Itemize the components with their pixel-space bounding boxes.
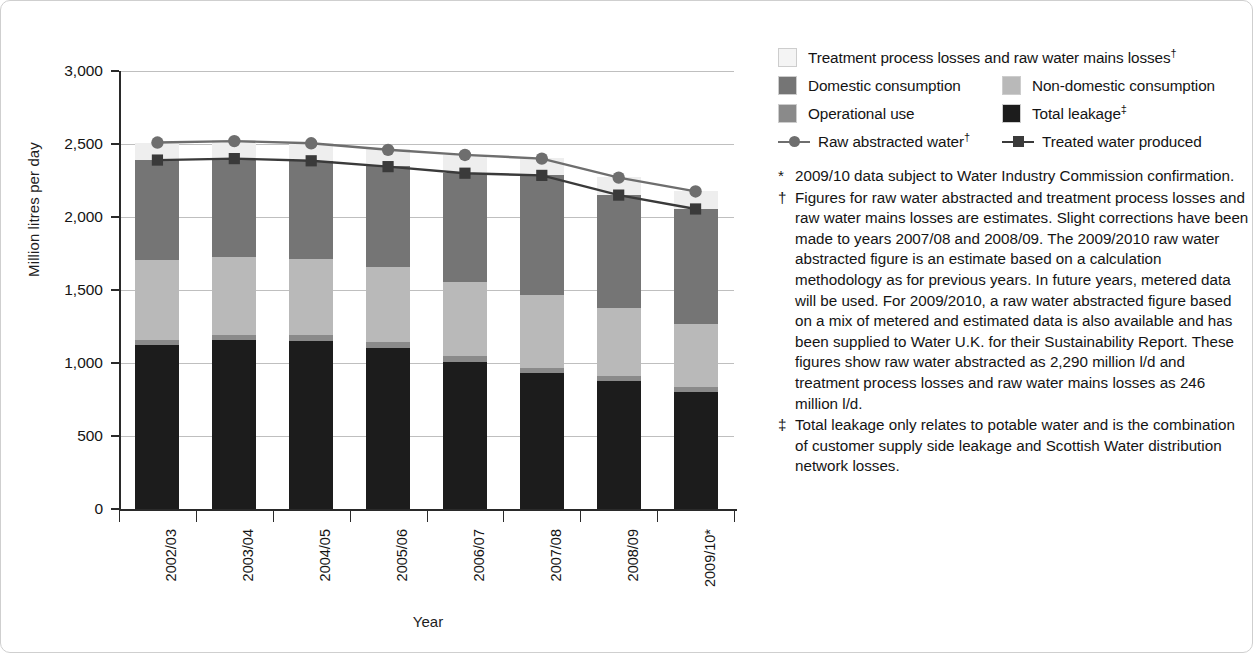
legend-swatch-domestic-consumption [778,76,797,95]
x-tick-label: 2005/06 [394,529,410,581]
legend-row: Raw abstracted water†Treated water produ… [778,131,1253,152]
legend-swatch-operational-use [778,104,797,123]
marker-raw_abstracted_water [305,137,317,149]
legend-item-label: Non-domestic consumption [1032,77,1215,95]
legend-row: Domestic consumptionNon-domestic consump… [778,75,1253,96]
x-tick-mark [427,511,428,522]
y-tick-mark [111,289,119,291]
line-treated_water_produced [157,159,695,209]
legend-item-label: Treated water produced [1042,133,1202,151]
page-frame: Million litres per day 05001,0001,5002,0… [0,0,1253,653]
x-tick-mark [350,511,351,522]
y-tick-mark [111,435,119,437]
marker-raw_abstracted_water [382,144,394,156]
x-tick-label: 2006/07 [471,529,487,581]
y-tick-label: 0 [31,500,103,518]
legend-item-label: Total leakage‡ [1032,105,1127,123]
legend-swatch-total-leakage [1002,104,1021,123]
legend-item[interactable]: Total leakage‡ [1002,104,1226,123]
y-tick-mark [111,216,119,218]
y-tick-mark [111,70,119,72]
marker-treated_water_produced [536,170,547,181]
footnote-marker: ‡ [778,415,795,477]
legend-item[interactable]: Treated water produced [1002,132,1226,151]
marker-raw_abstracted_water [612,171,624,183]
marker-treated_water_produced [306,155,317,166]
legend-item[interactable]: Treatment process losses and raw water m… [778,48,1253,67]
x-tick-label: 2003/04 [240,529,256,581]
legend-footnote-marker: ‡ [1121,102,1127,114]
marker-treated_water_produced [613,190,624,201]
legend-item[interactable]: Operational use [778,104,1002,123]
x-tick-mark [580,511,581,522]
legend-item-label: Raw abstracted water† [818,133,970,151]
line-series-overlay [119,71,734,509]
footnote-marker: * [778,166,795,187]
chart-legend: Treatment process losses and raw water m… [778,47,1253,152]
legend-line-treated-water-produced [1002,132,1034,151]
x-tick-label: 2007/08 [548,529,564,581]
legend-swatch-non-domestic-consumption [1002,76,1021,95]
x-tick-mark [734,511,735,522]
legend-and-notes-panel: Treatment process losses and raw water m… [766,1,1253,653]
y-tick-mark [111,362,119,364]
footnote-text: 2009/10 data subject to Water Industry C… [795,166,1250,187]
y-tick-label: 3,000 [31,62,103,80]
x-tick-label: 2004/05 [317,529,333,581]
y-tick-label: 1,500 [31,281,103,299]
legend-item-label: Domestic consumption [808,77,961,95]
x-tick-mark [196,511,197,522]
y-tick-mark [111,508,119,510]
legend-footnote-marker: † [1170,46,1176,58]
marker-raw_abstracted_water [536,152,548,164]
chart-container: Million litres per day 05001,0001,5002,0… [1,1,766,653]
footnote-marker: † [778,188,795,415]
footnote-item: ‡Total leakage only relates to potable w… [778,415,1250,477]
footnote-text: Figures for raw water abstracted and tre… [795,188,1250,415]
x-tick-label: 2008/09 [625,529,641,581]
line-raw_abstracted_water [157,141,695,191]
legend-row: Operational useTotal leakage‡ [778,103,1253,124]
footnotes: *2009/10 data subject to Water Industry … [778,166,1250,477]
marker-raw_abstracted_water [151,136,163,148]
legend-swatch-treatment-losses [778,48,797,67]
legend-line-raw-abstracted-water [778,132,810,151]
marker-raw_abstracted_water [689,185,701,197]
footnote-text: Total leakage only relates to potable wa… [795,415,1250,477]
marker-raw_abstracted_water [459,149,471,161]
footnote-item: *2009/10 data subject to Water Industry … [778,166,1250,187]
marker-treated_water_produced [459,168,470,179]
legend-item[interactable]: Non-domestic consumption [1002,76,1226,95]
x-tick-mark [119,511,120,522]
y-tick-label: 500 [31,427,103,445]
y-tick-label: 2,500 [31,135,103,153]
marker-raw_abstracted_water [228,135,240,147]
x-axis-line [119,509,737,511]
footnote-item: †Figures for raw water abstracted and tr… [778,188,1250,415]
y-tick-label: 1,000 [31,354,103,372]
legend-item[interactable]: Raw abstracted water† [778,132,1002,151]
marker-treated_water_produced [229,153,240,164]
x-tick-label: 2002/03 [163,529,179,581]
marker-treated_water_produced [690,203,701,214]
legend-item[interactable]: Domestic consumption [778,76,1002,95]
marker-treated_water_produced [152,154,163,165]
x-tick-mark [657,511,658,522]
y-tick-label: 2,000 [31,208,103,226]
legend-item-label: Treatment process losses and raw water m… [808,49,1176,67]
marker-treated_water_produced [382,161,393,172]
legend-row: Treatment process losses and raw water m… [778,47,1253,68]
x-tick-label: 2009/10* [702,529,718,587]
legend-footnote-marker: † [964,130,970,142]
y-tick-mark [111,143,119,145]
x-axis-title: Year [119,613,737,630]
x-tick-mark [273,511,274,522]
x-tick-mark [503,511,504,522]
legend-item-label: Operational use [808,105,915,123]
